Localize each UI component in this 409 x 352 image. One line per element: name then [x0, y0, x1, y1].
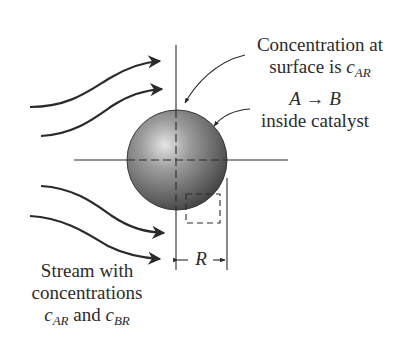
stream-label-line1: Stream with: [12, 260, 162, 282]
stream-label: Stream with concentrations cAR and cBR: [12, 260, 162, 332]
radius-label: R: [188, 248, 214, 270]
surface-label-line2: surface is cAR: [240, 56, 400, 84]
stream-label-line3: cAR and cBR: [12, 304, 162, 332]
reaction-label: A → B inside catalyst: [245, 88, 385, 132]
streamline-1: [30, 61, 160, 107]
surface-leader: [185, 55, 245, 103]
reaction-label-line2: inside catalyst: [245, 110, 385, 132]
surface-concentration-label: Concentration at surface is cAR: [240, 34, 400, 84]
streamline-4: [30, 216, 160, 259]
surface-label-line1: Concentration at: [240, 34, 400, 56]
reaction-equation: A → B: [245, 88, 385, 110]
stream-label-line2: concentrations: [12, 282, 162, 304]
